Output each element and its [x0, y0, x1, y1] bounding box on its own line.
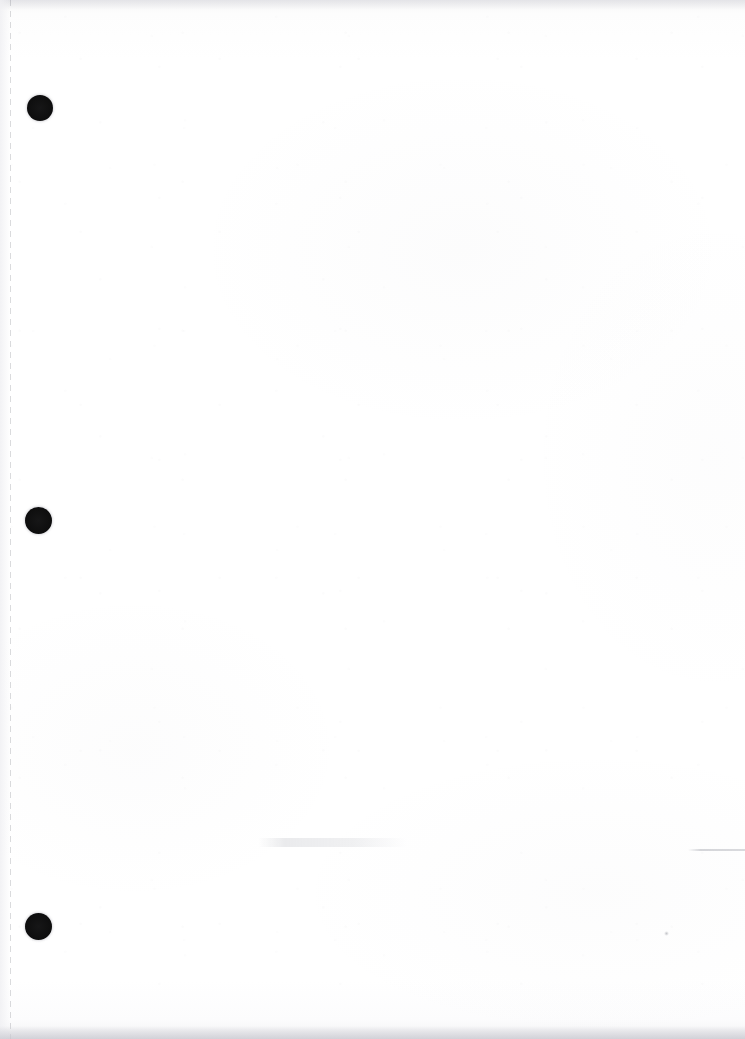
scan-speck-artifact: [664, 931, 669, 936]
bottom-edge-shadow: [0, 1026, 745, 1039]
scan-smudge-artifact: [258, 838, 408, 847]
perforation-dashed-line: [10, 0, 11, 1039]
tear-off-strip: [0, 0, 10, 1039]
paper-surface: [0, 0, 745, 1039]
top-edge-shadow: [0, 0, 745, 10]
scanned-page: Blank scanned notebook page: [0, 0, 745, 1039]
punch-hole-icon: [25, 507, 52, 534]
punch-hole-icon: [27, 95, 53, 121]
punch-hole-icon: [25, 913, 52, 940]
scan-edge-rule-artifact: [688, 849, 745, 851]
